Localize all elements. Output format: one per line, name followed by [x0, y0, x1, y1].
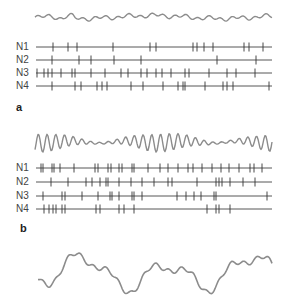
panel-label-b: b: [20, 222, 27, 234]
spike-train-a-n1: [36, 43, 272, 52]
row-label-a-n1: N1: [16, 42, 29, 52]
row-label-a-n4: N4: [16, 81, 29, 91]
spike-train-a-n3: [36, 69, 272, 78]
panel-c: [38, 253, 272, 294]
spike-train-a-n2: [36, 56, 272, 65]
row-label-b-n2: N2: [16, 177, 29, 187]
row-label-b-n3: N3: [16, 191, 29, 201]
spike-train-b-n2: [36, 178, 272, 187]
lfp-wave-b: [35, 134, 272, 152]
lfp-wave-a: [35, 13, 272, 21]
lfp-wave-c: [38, 253, 272, 294]
spike-train-b-n1: [36, 164, 272, 173]
panel-label-a: a: [16, 101, 22, 113]
panel-a: [35, 13, 272, 90]
row-label-b-n4: N4: [16, 204, 29, 214]
row-label-a-n2: N2: [16, 55, 29, 65]
spike-raster-figure: [0, 0, 286, 299]
spike-train-b-n4: [36, 205, 272, 214]
spike-train-a-n4: [36, 82, 272, 91]
row-label-b-n1: N1: [16, 163, 29, 173]
row-label-a-n3: N3: [16, 68, 29, 78]
figure-canvas: [0, 0, 286, 299]
spike-train-b-n3: [36, 192, 272, 201]
panel-b: [35, 134, 272, 214]
